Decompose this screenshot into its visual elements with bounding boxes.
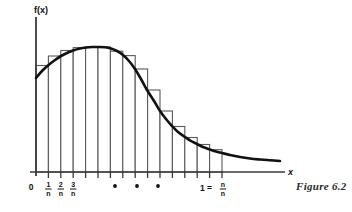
- riemann-rectangle: [48, 56, 60, 172]
- tick-label-denominator: n: [221, 190, 225, 197]
- x-axis-label: x: [287, 167, 294, 177]
- y-axis-label: f(x): [34, 5, 48, 15]
- ellipsis-dot: [113, 184, 117, 188]
- figure-container: f(x) x 01n2n3n1 =nn Figure 6.2: [0, 0, 352, 212]
- ellipsis-dot: [156, 184, 160, 188]
- ellipsis-dot: [135, 184, 139, 188]
- tick-label-denominator: n: [46, 190, 50, 197]
- tick-label-equals: 1 =: [200, 183, 212, 193]
- tick-label-denominator: n: [59, 190, 63, 197]
- riemann-rectangle: [61, 51, 73, 173]
- riemann-rectangle: [123, 56, 135, 172]
- tick-label-numerator: 1: [46, 181, 50, 188]
- riemann-rectangle: [73, 48, 85, 172]
- tick-label-origin: 0: [29, 182, 34, 192]
- riemann-rectangle: [110, 51, 122, 172]
- riemann-rectangle: [135, 69, 147, 172]
- figure-caption: Figure 6.2: [296, 180, 347, 192]
- tick-label-denominator: n: [71, 190, 75, 197]
- riemann-rectangle: [98, 47, 110, 172]
- tick-label-numerator: 2: [59, 181, 63, 188]
- riemann-rectangle: [86, 47, 98, 172]
- tick-label-numerator: n: [221, 181, 225, 188]
- tick-label-numerator: 3: [71, 181, 75, 188]
- riemann-rectangle: [36, 66, 48, 173]
